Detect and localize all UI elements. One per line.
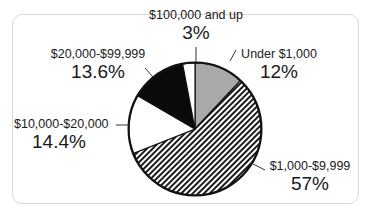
label-percent: 14.4% — [14, 132, 118, 151]
pie-slices — [129, 63, 261, 195]
label-100k-up: $100,000 and up 3% — [138, 9, 254, 42]
label-name: Under $1,000 — [228, 48, 330, 61]
label-name: $100,000 and up — [138, 9, 254, 22]
label-name: $20,000-$99,999 — [42, 48, 154, 61]
label-percent: 3% — [138, 23, 254, 42]
label-name: $10,000-$20,000 — [14, 118, 118, 131]
label-20k-99999: $20,000-$99,999 13.6% — [42, 48, 154, 81]
label-1000-9999: $1,000-$9,999 57% — [262, 160, 358, 193]
label-10k-20k: $10,000-$20,000 14.4% — [14, 118, 118, 151]
label-percent: 57% — [262, 174, 358, 193]
label-percent: 13.6% — [42, 62, 154, 81]
label-under-1000: Under $1,000 12% — [228, 48, 330, 81]
label-name: $1,000-$9,999 — [262, 160, 358, 173]
label-percent: 12% — [228, 62, 330, 81]
